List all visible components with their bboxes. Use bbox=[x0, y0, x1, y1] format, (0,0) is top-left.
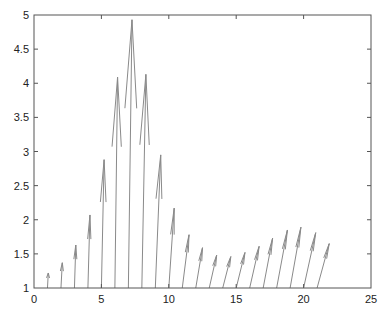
quiver-arrow bbox=[304, 233, 316, 288]
quiver-arrow bbox=[250, 246, 259, 288]
y-tick-label: 2.5 bbox=[14, 180, 29, 192]
y-tick-label: 4 bbox=[23, 77, 29, 89]
arrowhead-icon bbox=[324, 244, 329, 259]
quiver-arrow bbox=[125, 20, 137, 288]
quiver-arrow bbox=[317, 244, 329, 288]
y-axis: 11.522.533.544.55 bbox=[14, 9, 371, 294]
quiver-arrow bbox=[182, 235, 189, 288]
x-tick-label: 20 bbox=[297, 293, 309, 305]
quiver-arrow bbox=[140, 74, 149, 288]
arrowhead-icon bbox=[310, 233, 315, 252]
y-tick-label: 4.5 bbox=[14, 43, 29, 55]
quiver-arrow bbox=[60, 263, 63, 288]
quiver-arrow bbox=[74, 245, 77, 288]
quiver-arrow bbox=[236, 253, 245, 288]
quiver-arrow bbox=[290, 227, 301, 288]
quiver-arrow bbox=[223, 257, 231, 288]
quiver-arrow bbox=[155, 155, 162, 288]
quiver-chart: 0510152025 11.522.533.544.55 bbox=[0, 0, 386, 319]
arrowhead-icon bbox=[282, 230, 287, 249]
arrows-layer bbox=[47, 20, 330, 288]
plot-area-frame bbox=[34, 15, 371, 288]
x-tick-label: 5 bbox=[98, 293, 104, 305]
y-tick-label: 2 bbox=[23, 214, 29, 226]
y-tick-label: 1 bbox=[23, 282, 29, 294]
y-tick-label: 3.5 bbox=[14, 111, 29, 123]
x-tick-label: 0 bbox=[31, 293, 37, 305]
y-tick-label: 1.5 bbox=[14, 248, 29, 260]
quiver-arrow bbox=[263, 238, 272, 288]
quiver-arrow bbox=[47, 273, 50, 288]
quiver-arrow bbox=[277, 230, 288, 288]
x-tick-label: 15 bbox=[230, 293, 242, 305]
y-tick-label: 5 bbox=[23, 9, 29, 21]
y-tick-label: 3 bbox=[23, 146, 29, 158]
quiver-arrow bbox=[88, 215, 91, 288]
quiver-arrow bbox=[209, 255, 216, 288]
x-axis: 0510152025 bbox=[31, 15, 377, 305]
x-tick-label: 10 bbox=[163, 293, 175, 305]
quiver-arrow bbox=[169, 208, 174, 288]
arrowhead-icon bbox=[296, 227, 301, 247]
quiver-arrow bbox=[100, 160, 106, 288]
quiver-arrow bbox=[112, 77, 121, 288]
quiver-arrow bbox=[196, 248, 203, 288]
x-tick-label: 25 bbox=[365, 293, 377, 305]
